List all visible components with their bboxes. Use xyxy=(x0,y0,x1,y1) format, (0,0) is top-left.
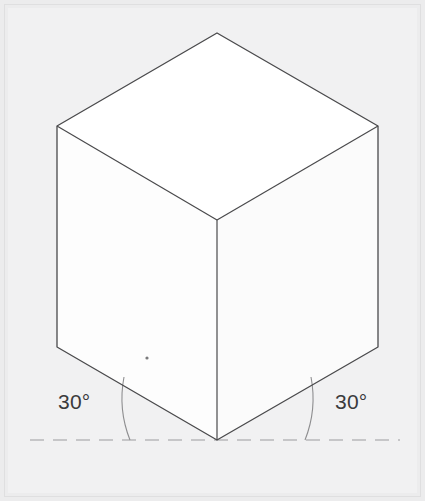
figure-root: 30° 30° xyxy=(0,0,425,501)
angle-label-left: 30° xyxy=(58,390,90,413)
scan-speck xyxy=(145,356,148,359)
isometric-cube-diagram: 30° 30° xyxy=(0,0,425,501)
angle-label-right: 30° xyxy=(335,390,367,413)
